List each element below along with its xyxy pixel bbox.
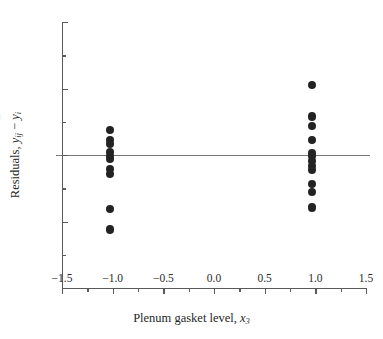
y-axis-variable: y: [8, 138, 22, 144]
y-axis-fitted-letter: y: [8, 114, 22, 120]
x-axis-tick: [265, 288, 266, 294]
x-axis-variable-subscript: 3: [246, 316, 250, 326]
x-axis-minor-tick: [87, 288, 88, 292]
circumflex-accent-icon: ˆ: [0, 115, 8, 119]
x-axis-tick-label: 1.5: [359, 272, 373, 284]
data-point: [308, 81, 316, 89]
y-axis-minor-tick: [62, 255, 66, 256]
x-axis-tick: [366, 288, 367, 294]
y-axis-minor-tick: [62, 188, 66, 189]
x-axis-tick-label: 0.0: [207, 272, 221, 284]
x-axis-tick-label: −1.5: [52, 272, 73, 284]
x-axis-tick-label: −1.0: [102, 272, 123, 284]
x-axis-minor-tick: [138, 288, 139, 292]
x-axis-tick: [214, 288, 215, 294]
plot-area: [62, 22, 366, 288]
y-axis-tick: [62, 288, 68, 289]
y-axis-minus-sign: −: [8, 120, 22, 133]
x-axis-tick-label: −0.5: [153, 272, 174, 284]
data-point: [308, 112, 316, 120]
residual-scatter-figure: −1.5−1.0−0.50.00.51.01.5 −2−1012 Plenum …: [0, 0, 383, 339]
data-point: [308, 180, 316, 188]
data-point: [308, 203, 316, 211]
x-axis-tick: [113, 288, 114, 294]
data-point: [106, 140, 114, 148]
zero-reference-line: [56, 155, 370, 156]
x-axis-minor-tick: [189, 288, 190, 292]
y-axis-minor-tick: [62, 55, 66, 56]
y-axis-tick: [62, 89, 68, 90]
data-point: [106, 155, 114, 163]
data-point: [106, 205, 114, 213]
x-axis-title: Plenum gasket level, x3: [0, 311, 383, 326]
y-axis-tick: [62, 22, 68, 23]
y-axis-tick: [62, 222, 68, 223]
data-point: [308, 136, 316, 144]
y-axis-minor-tick: [62, 122, 66, 123]
data-point: [308, 122, 316, 130]
data-point: [106, 170, 114, 178]
data-point: [106, 126, 114, 134]
y-axis-title-text: Residuals,: [8, 143, 22, 198]
x-axis-tick-label: 0.5: [257, 272, 271, 284]
y-axis-tick: [62, 155, 68, 156]
x-axis-title-text: Plenum gasket level,: [133, 311, 240, 325]
x-axis-tick: [163, 288, 164, 294]
y-axis-variable-subscript: ij: [13, 133, 23, 138]
y-axis-title: Residuals, yij − ˆyi: [4, 22, 26, 288]
data-point: [308, 188, 316, 196]
data-point: [106, 225, 114, 233]
x-axis-minor-tick: [341, 288, 342, 292]
x-axis-minor-tick: [239, 288, 240, 292]
data-point: [308, 166, 316, 174]
y-axis-fitted-variable: ˆy: [4, 114, 26, 120]
x-axis-tick-label: 1.0: [308, 272, 322, 284]
x-axis-minor-tick: [290, 288, 291, 292]
x-axis-tick: [315, 288, 316, 294]
